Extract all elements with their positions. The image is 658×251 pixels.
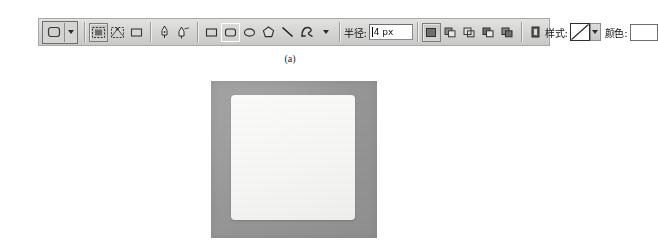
freeform-pen-tool-button[interactable]: [174, 23, 193, 42]
rounded-rectangle-icon: [47, 26, 61, 38]
shape-tools-dropdown[interactable]: [316, 23, 335, 42]
color-swatch[interactable]: [630, 24, 658, 41]
radius-value: 4 px: [374, 28, 394, 37]
intersect-shape-icon: [463, 27, 475, 38]
paths-icon: [111, 27, 124, 38]
rectangle-tool-button[interactable]: [202, 23, 221, 42]
shape-layers-button[interactable]: [89, 23, 108, 42]
shape-layer-icon: [92, 27, 105, 38]
radius-input[interactable]: 4 px: [369, 24, 413, 40]
separator: [197, 22, 198, 42]
figure-caption: (a): [0, 53, 580, 64]
tool-preset-dropdown[interactable]: [65, 23, 77, 42]
polygon-icon: [262, 26, 275, 38]
custom-shape-icon: [300, 26, 314, 38]
separator: [339, 22, 340, 42]
color-label: 颜色:: [605, 25, 628, 40]
separator: [150, 22, 151, 42]
chevron-down-icon: [592, 30, 598, 34]
ellipse-tool-button[interactable]: [240, 23, 259, 42]
rounded-rectangle-tool-preset-icon[interactable]: [43, 23, 65, 42]
line-icon: [281, 26, 294, 38]
rounded-rectangle-tool-button[interactable]: [221, 23, 240, 42]
paths-button[interactable]: [108, 23, 127, 42]
radius-label: 半径:: [344, 25, 367, 40]
fill-pixels-button[interactable]: [127, 23, 146, 42]
style-swatch[interactable]: [570, 23, 590, 41]
rounded-rectangle-icon: [224, 27, 237, 38]
intersect-shape-areas-button[interactable]: [460, 23, 479, 42]
separator: [521, 22, 522, 42]
separator: [417, 22, 418, 42]
separator: [84, 22, 85, 42]
rectangle-icon: [205, 27, 218, 38]
custom-shape-tool-button[interactable]: [297, 23, 316, 42]
text-cursor: [372, 27, 373, 37]
shape-tool-options-bar: 半径: 4 px: [38, 18, 550, 46]
layer-style-toggle-button[interactable]: [526, 23, 545, 42]
no-style-icon: [571, 24, 589, 40]
combine-shape-icon: [501, 27, 513, 38]
polygon-tool-button[interactable]: [259, 23, 278, 42]
pen-tool-button[interactable]: [155, 23, 174, 42]
pen-icon: [159, 25, 170, 39]
chevron-down-icon: [323, 30, 329, 34]
add-to-shape-area-button[interactable]: [422, 23, 441, 42]
subtract-shape-icon: [444, 27, 456, 38]
exclude-overlapping-areas-button[interactable]: [479, 23, 498, 42]
freeform-pen-icon: [177, 25, 190, 39]
rounded-rectangle-shape: [231, 95, 355, 220]
canvas-preview: [211, 81, 377, 238]
exclude-shape-icon: [482, 27, 494, 38]
chevron-down-icon: [68, 30, 74, 34]
style-label: 样式:: [545, 25, 568, 40]
line-tool-button[interactable]: [278, 23, 297, 42]
combine-shape-areas-button[interactable]: [498, 23, 517, 42]
tool-preset-picker[interactable]: [42, 21, 78, 44]
add-shape-icon: [425, 27, 437, 38]
subtract-from-shape-area-button[interactable]: [441, 23, 460, 42]
ellipse-icon: [243, 27, 256, 38]
fill-pixels-icon: [130, 27, 143, 38]
style-dropdown[interactable]: [590, 23, 601, 41]
layer-style-icon: [531, 26, 540, 38]
